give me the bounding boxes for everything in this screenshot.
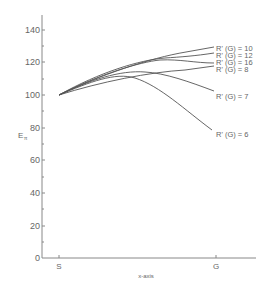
y-tick-80: 80 bbox=[30, 123, 40, 133]
label-r8: R' (G) = 8 bbox=[216, 65, 248, 74]
y-tick-140: 140 bbox=[25, 25, 40, 35]
x-tick-G: G bbox=[213, 262, 219, 271]
y-axis bbox=[42, 15, 45, 258]
y-label-sub: π bbox=[24, 135, 28, 141]
curve-r12 bbox=[59, 53, 214, 95]
y-tick-0: 0 bbox=[35, 253, 40, 263]
curves bbox=[59, 47, 214, 130]
y-tick-40: 40 bbox=[30, 188, 40, 198]
label-r7: R' (G) = 7 bbox=[216, 92, 248, 101]
y-label-main: E bbox=[18, 131, 23, 140]
label-r6: R' (G) = 6 bbox=[216, 130, 248, 139]
y-tick-120: 120 bbox=[25, 57, 40, 67]
y-tick-60: 60 bbox=[30, 155, 40, 165]
chart: 140 120 100 80 60 40 20 0 E π S G x-axis… bbox=[0, 0, 270, 290]
y-tick-100: 100 bbox=[25, 90, 40, 100]
x-axis bbox=[42, 255, 256, 258]
y-axis-label: E π bbox=[18, 131, 28, 141]
y-tick-20: 20 bbox=[30, 221, 40, 231]
curve-r8 bbox=[59, 66, 214, 95]
x-tick-S: S bbox=[56, 262, 61, 271]
curve-r16 bbox=[59, 60, 214, 95]
x-axis-label: x-axis bbox=[138, 273, 154, 279]
